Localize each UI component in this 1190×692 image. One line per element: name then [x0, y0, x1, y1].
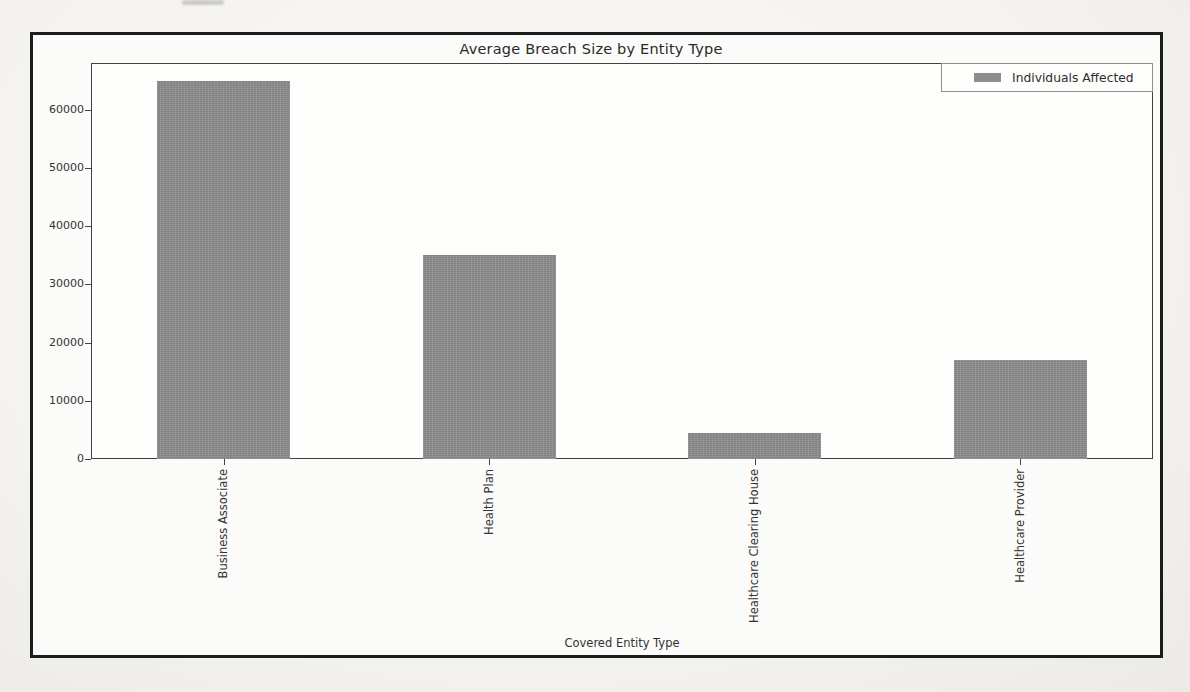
- bar: [954, 360, 1087, 459]
- x-tick-mark: [224, 459, 225, 465]
- scanned-page: Average Breach Size by Entity Type 01000…: [0, 0, 1190, 692]
- y-tick-mark: [85, 401, 91, 402]
- x-tick-mark: [1020, 459, 1021, 465]
- y-tick-mark: [85, 226, 91, 227]
- x-tick-mark: [755, 459, 756, 465]
- y-tick-label: 40000: [32, 219, 84, 233]
- x-category-label: Business Associate: [217, 469, 230, 578]
- y-tick-label: 20000: [32, 336, 84, 350]
- x-axis-title: Covered Entity Type: [91, 636, 1153, 650]
- y-tick-mark: [85, 168, 91, 169]
- y-tick-mark: [85, 343, 91, 344]
- y-tick-label: 0: [32, 452, 84, 466]
- y-tick-label: 60000: [32, 103, 84, 117]
- legend-swatch: [974, 73, 1001, 82]
- bar: [157, 81, 290, 460]
- bar: [688, 433, 821, 459]
- legend-label: Individuals Affected: [1012, 71, 1134, 85]
- y-tick-label: 10000: [32, 394, 84, 408]
- x-category-label: Health Plan: [483, 469, 496, 535]
- y-tick-label: 30000: [32, 277, 84, 291]
- y-tick-mark: [85, 459, 91, 460]
- y-tick-mark: [85, 110, 91, 111]
- y-tick-mark: [85, 284, 91, 285]
- x-tick-mark: [489, 459, 490, 465]
- y-tick-label: 50000: [32, 161, 84, 175]
- chart-title: Average Breach Size by Entity Type: [60, 41, 1122, 57]
- x-category-label: Healthcare Clearing House: [748, 469, 761, 623]
- x-category-label: Healthcare Provider: [1014, 469, 1027, 583]
- scan-artifact: [182, 0, 224, 5]
- bar: [423, 255, 556, 459]
- legend: Individuals Affected: [941, 63, 1153, 92]
